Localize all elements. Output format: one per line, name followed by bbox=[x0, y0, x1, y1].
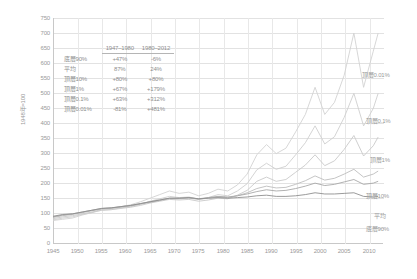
x-tick: 1995 bbox=[290, 248, 303, 254]
series-label-top001: 頂層0.01% bbox=[362, 72, 390, 79]
x-tick: 1945 bbox=[47, 248, 60, 254]
summary-cell: +67% bbox=[102, 84, 138, 94]
y-axis-ticks: 750 700 650 600 550 500 450 400 350 300 … bbox=[20, 0, 50, 244]
summary-cell: +63% bbox=[102, 94, 138, 104]
summary-table-row: 頂層1% +67% +179% bbox=[62, 84, 174, 94]
summary-cell: +481% bbox=[138, 104, 174, 114]
y-tick: 50 bbox=[24, 225, 50, 231]
summary-table-header-row: 1947–1980 1980–2012 bbox=[62, 44, 174, 54]
summary-cell: +312% bbox=[138, 94, 174, 104]
y-tick: 150 bbox=[24, 195, 50, 201]
summary-row-label: 頂層10% bbox=[62, 74, 102, 84]
summary-cell: -81% bbox=[102, 104, 138, 114]
summary-period-1: 1947–1980 bbox=[102, 44, 138, 54]
x-axis-ticks: 1945 1950 1955 1960 1965 1970 1975 1980 … bbox=[53, 248, 383, 260]
x-tick: 1960 bbox=[119, 248, 132, 254]
x-tick: 2010 bbox=[363, 248, 376, 254]
summary-table: 1947–1980 1980–2012 底層90% +47% -6% 平均 87… bbox=[62, 44, 174, 114]
y-tick: 250 bbox=[24, 165, 50, 171]
summary-cell: +80% bbox=[138, 74, 174, 84]
summary-row-label: 頂層0.01% bbox=[62, 104, 102, 114]
x-tick: 1955 bbox=[95, 248, 108, 254]
y-tick: 0 bbox=[24, 240, 50, 246]
x-tick: 1980 bbox=[217, 248, 230, 254]
series-label-average: 平均 bbox=[374, 213, 386, 220]
y-tick: 450 bbox=[24, 105, 50, 111]
summary-cell: 24% bbox=[138, 64, 174, 74]
summary-cell: 87% bbox=[102, 64, 138, 74]
y-tick: 400 bbox=[24, 120, 50, 126]
chart-container: 1948年=100 750 700 650 600 550 500 450 40… bbox=[0, 0, 417, 279]
y-tick: 650 bbox=[24, 45, 50, 51]
y-tick: 700 bbox=[24, 30, 50, 36]
summary-table-row: 頂層0.01% -81% +481% bbox=[62, 104, 174, 114]
summary-cell: +179% bbox=[138, 84, 174, 94]
series-label-top1: 頂層1% bbox=[370, 157, 390, 164]
x-tick: 2005 bbox=[338, 248, 351, 254]
y-tick: 200 bbox=[24, 180, 50, 186]
summary-table-row: 頂層0.1% +63% +312% bbox=[62, 94, 174, 104]
series-label-bottom90: 底層90% bbox=[366, 226, 389, 233]
summary-cell: +80% bbox=[102, 74, 138, 84]
summary-period-2: 1980–2012 bbox=[138, 44, 174, 54]
y-tick: 550 bbox=[24, 75, 50, 81]
summary-table-row: 底層90% +47% -6% bbox=[62, 54, 174, 65]
summary-table-corner bbox=[62, 44, 102, 54]
y-tick: 100 bbox=[24, 210, 50, 216]
x-tick: 1950 bbox=[71, 248, 84, 254]
summary-cell: +47% bbox=[102, 54, 138, 65]
summary-cell: -6% bbox=[138, 54, 174, 65]
x-tick: 2000 bbox=[314, 248, 327, 254]
x-tick: 1975 bbox=[192, 248, 205, 254]
series-label-top10: 頂層10% bbox=[366, 193, 389, 200]
y-tick: 300 bbox=[24, 150, 50, 156]
summary-row-label: 平均 bbox=[62, 64, 102, 74]
y-tick: 600 bbox=[24, 60, 50, 66]
series-label-top01: 頂層0.1% bbox=[366, 118, 390, 125]
summary-table-row: 頂層10% +80% +80% bbox=[62, 74, 174, 84]
y-tick: 750 bbox=[24, 15, 50, 21]
series-line bbox=[53, 136, 378, 219]
x-tick: 1985 bbox=[241, 248, 254, 254]
summary-row-label: 頂層0.1% bbox=[62, 94, 102, 104]
summary-row-label: 底層90% bbox=[62, 54, 102, 65]
y-tick: 350 bbox=[24, 135, 50, 141]
y-tick: 500 bbox=[24, 90, 50, 96]
x-tick: 1970 bbox=[168, 248, 181, 254]
x-tick: 1965 bbox=[144, 248, 157, 254]
summary-row-label: 頂層1% bbox=[62, 84, 102, 94]
summary-table-row: 平均 87% 24% bbox=[62, 64, 174, 74]
x-tick: 1990 bbox=[265, 248, 278, 254]
